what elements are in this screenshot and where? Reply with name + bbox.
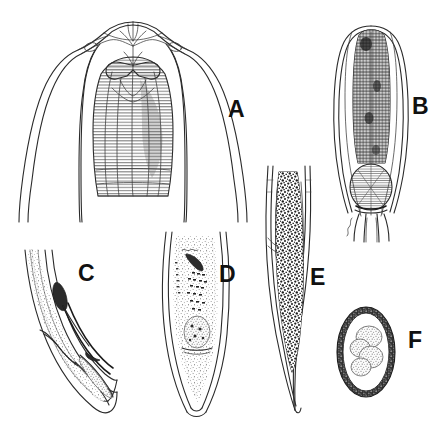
panel-label-f: F [408,329,422,352]
panel-label-b: B [412,95,429,118]
panel-label-d: D [219,263,236,286]
panel-f-drawing [337,307,395,397]
figure-plate: A B C D E F [0,0,445,437]
plate-drawing [0,0,445,437]
panel-label-a: A [228,98,245,121]
panel-label-e: E [310,266,325,289]
panel-label-c: C [78,262,95,285]
